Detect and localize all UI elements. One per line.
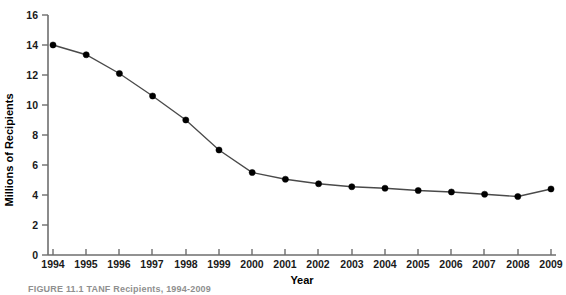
x-tick-label: 2001 [273, 258, 297, 270]
data-point [415, 187, 421, 193]
y-tick-label: 12 [26, 69, 38, 81]
y-axis-ticks [42, 15, 48, 255]
data-point [316, 181, 322, 187]
data-point [548, 186, 554, 192]
x-tick-label: 1995 [74, 258, 98, 270]
data-point [249, 169, 255, 175]
y-tick-label: 10 [26, 99, 38, 111]
x-tick-label: 2003 [340, 258, 364, 270]
y-tick-label: 14 [26, 39, 38, 51]
data-point [116, 70, 122, 76]
y-axis-title: Millions of Recipients [3, 93, 15, 206]
x-tick-label: 2009 [539, 258, 563, 270]
data-point [349, 184, 355, 190]
data-markers [50, 42, 554, 200]
line-chart: Millions of Recipients 0 2 4 6 8 10 12 1… [0, 0, 566, 295]
x-axis-labels: 1994 1995 1996 1997 1998 1999 2000 2001 … [41, 258, 563, 270]
x-tick-label: 2004 [373, 258, 397, 270]
x-tick-label: 1994 [41, 258, 65, 270]
y-tick-label: 16 [26, 9, 38, 21]
data-point [216, 147, 222, 153]
data-point [83, 52, 89, 58]
y-tick-label: 8 [32, 129, 38, 141]
data-point [150, 93, 156, 99]
x-tick-label: 1998 [174, 258, 198, 270]
x-tick-label: 2002 [306, 258, 330, 270]
data-point [183, 117, 189, 123]
x-tick-label: 2005 [406, 258, 430, 270]
x-tick-label: 1996 [107, 258, 131, 270]
data-point [482, 191, 488, 197]
data-point [50, 42, 56, 48]
data-point [282, 176, 288, 182]
x-axis-ticks [53, 249, 551, 255]
figure-container: Millions of Recipients 0 2 4 6 8 10 12 1… [0, 0, 566, 295]
y-tick-label: 0 [32, 249, 38, 261]
y-tick-label: 2 [32, 219, 38, 231]
figure-caption: FIGURE 11.1 TANF Recipients, 1994-2009 [28, 284, 211, 294]
y-tick-label: 4 [32, 189, 38, 201]
data-point [382, 185, 388, 191]
y-tick-label: 6 [32, 159, 38, 171]
data-point [448, 189, 454, 195]
x-tick-label: 2006 [439, 258, 463, 270]
figure-caption-strip: FIGURE 11.1 TANF Recipients, 1994-2009 [0, 284, 566, 295]
data-line-series-recipients [53, 45, 551, 197]
x-tick-label: 2000 [240, 258, 264, 270]
y-axis-labels: 0 2 4 6 8 10 12 14 16 [26, 9, 38, 261]
x-tick-label: 2008 [506, 258, 530, 270]
x-tick-label: 1997 [140, 258, 164, 270]
data-point [515, 193, 521, 199]
x-tick-label: 2007 [472, 258, 496, 270]
x-tick-label: 1999 [207, 258, 231, 270]
